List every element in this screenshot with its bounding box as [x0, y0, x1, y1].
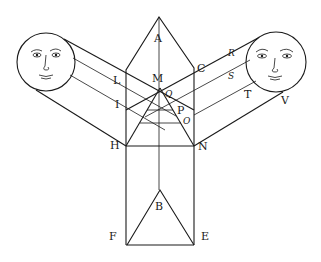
label-t: T — [244, 88, 252, 101]
label-v: V — [280, 94, 290, 107]
lower-box — [126, 146, 194, 245]
label-a: A — [153, 32, 163, 45]
right-sun-face-icon — [246, 32, 306, 92]
label-c: C — [197, 62, 205, 75]
label-q: Q — [165, 89, 173, 99]
label-b: B — [155, 200, 163, 213]
label-r: R — [227, 48, 235, 58]
label-i: I — [115, 98, 119, 111]
label-m: M — [152, 72, 163, 85]
label-e: E — [201, 230, 209, 243]
sun-rays-diagram: A M Q C L I P O H N R S T V B F E — [0, 0, 321, 262]
label-o: O — [183, 116, 191, 126]
label-f: F — [109, 230, 117, 243]
label-n: N — [198, 140, 208, 153]
label-s: S — [228, 71, 234, 81]
label-h: H — [110, 139, 120, 152]
left-sun-face-icon — [17, 33, 75, 91]
label-l: L — [113, 74, 121, 87]
